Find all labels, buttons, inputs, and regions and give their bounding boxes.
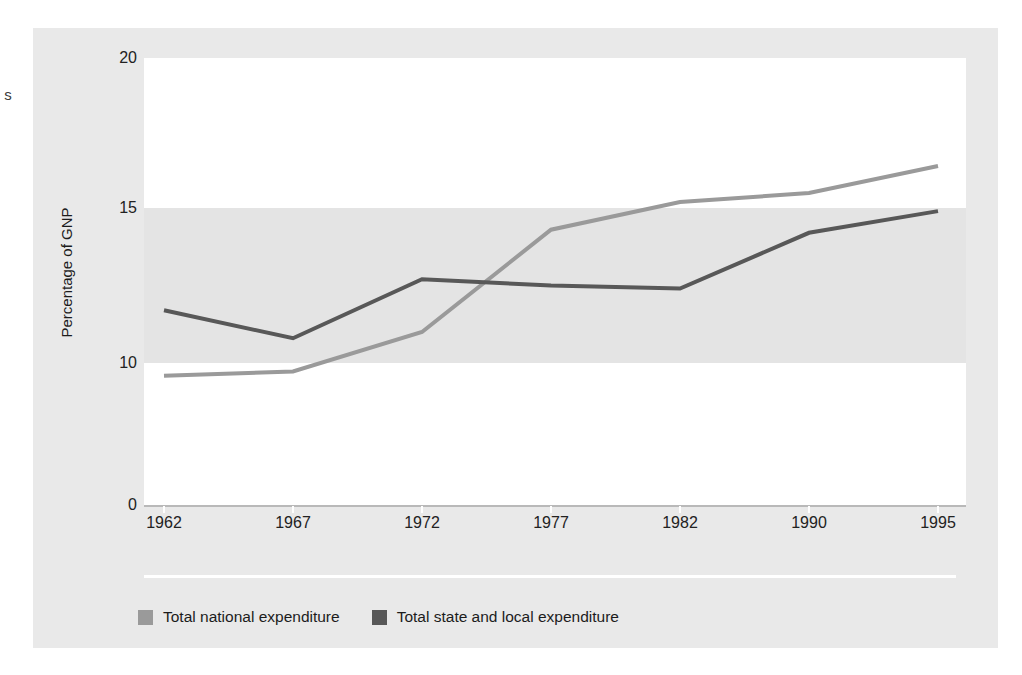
y-tick-15: 15 [91, 199, 137, 217]
y-axis-ticks: 20 15 10 0 [81, 58, 137, 505]
legend-swatch-icon-2 [372, 610, 387, 625]
x-tick-mark-1990 [808, 506, 810, 513]
x-tick-mark-1995 [937, 506, 939, 513]
x-tick-1995: 1995 [893, 514, 983, 532]
legend-swatch-icon-1 [138, 610, 153, 625]
y-tick-0: 0 [91, 496, 137, 514]
x-tick-1990: 1990 [764, 514, 854, 532]
x-tick-mark-1977 [550, 506, 552, 513]
legend-label-1: Total national expenditure [163, 608, 340, 626]
chart-legend: Total national expenditureTotal state an… [138, 606, 651, 628]
legend-label-2: Total state and local expenditure [397, 608, 619, 626]
x-axis-line [144, 505, 966, 507]
x-tick-1962: 1962 [119, 514, 209, 532]
y-tick-10: 10 [91, 354, 137, 372]
legend-item-1[interactable]: Total national expenditure [138, 608, 340, 626]
series-line-total-national-expenditure [164, 166, 938, 376]
legend-item-2[interactable]: Total state and local expenditure [372, 608, 619, 626]
x-tick-1967: 1967 [248, 514, 338, 532]
x-tick-mark-1982 [679, 506, 681, 513]
x-tick-mark-1972 [421, 506, 423, 513]
plot-area [144, 58, 966, 505]
y-axis-title: Percentage of GNP [58, 168, 75, 378]
x-tick-1977: 1977 [506, 514, 596, 532]
x-tick-1982: 1982 [635, 514, 725, 532]
legend-separator-rule [144, 575, 956, 578]
chart-figure-panel: 20 15 10 0 Percentage of GNP 19621967197… [33, 28, 998, 648]
series-lines-svg [144, 58, 966, 505]
x-axis-ticks: 1962196719721977198219901995 [144, 514, 966, 544]
x-tick-1972: 1972 [377, 514, 467, 532]
page-margin-text: s [0, 60, 16, 480]
y-tick-20: 20 [91, 49, 137, 67]
x-tick-mark-1967 [292, 506, 294, 513]
x-tick-mark-1962 [163, 506, 165, 513]
